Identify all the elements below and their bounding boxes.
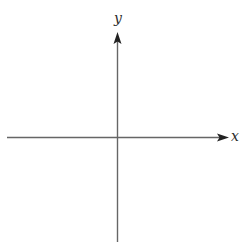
x-axis: x	[7, 128, 239, 144]
y-axis: y	[113, 10, 123, 242]
x-axis-label: x	[231, 128, 239, 144]
y-axis-label: y	[113, 10, 123, 26]
coordinate-axes: x y	[0, 0, 251, 249]
